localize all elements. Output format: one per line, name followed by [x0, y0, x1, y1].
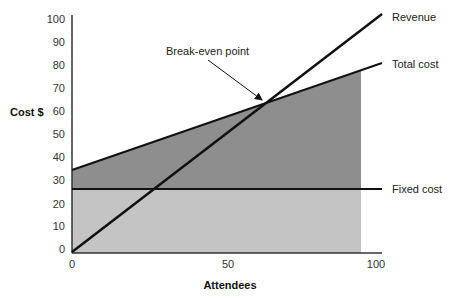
break-even-label: Break-even point	[166, 45, 249, 57]
fixed-cost-area	[72, 189, 361, 253]
revenue-label: Revenue	[392, 11, 436, 23]
y-tick-labels: 0 10 20 30 40 50 60 70 80 90 100	[47, 13, 65, 255]
variable-cost-area	[72, 71, 361, 189]
svg-text:0: 0	[59, 243, 65, 255]
svg-text:30: 30	[53, 174, 65, 186]
break-even-arrow	[208, 60, 262, 100]
svg-text:50: 50	[53, 128, 65, 140]
x-tick-labels: 0 50 100	[69, 258, 385, 270]
svg-text:50: 50	[222, 258, 234, 270]
total-cost-label: Total cost	[392, 58, 438, 70]
svg-text:20: 20	[53, 198, 65, 210]
svg-text:60: 60	[53, 105, 65, 117]
svg-text:80: 80	[53, 59, 65, 71]
svg-text:10: 10	[53, 220, 65, 232]
svg-text:90: 90	[53, 36, 65, 48]
svg-text:100: 100	[367, 258, 385, 270]
svg-text:100: 100	[47, 13, 65, 25]
y-axis-title: Cost $	[10, 106, 44, 118]
svg-text:40: 40	[53, 151, 65, 163]
fixed-cost-label: Fixed cost	[392, 183, 442, 195]
svg-text:0: 0	[69, 258, 75, 270]
svg-text:70: 70	[53, 82, 65, 94]
x-axis-title: Attendees	[203, 279, 256, 291]
break-even-chart: Break-even point Revenue Total cost Fixe…	[0, 0, 450, 296]
